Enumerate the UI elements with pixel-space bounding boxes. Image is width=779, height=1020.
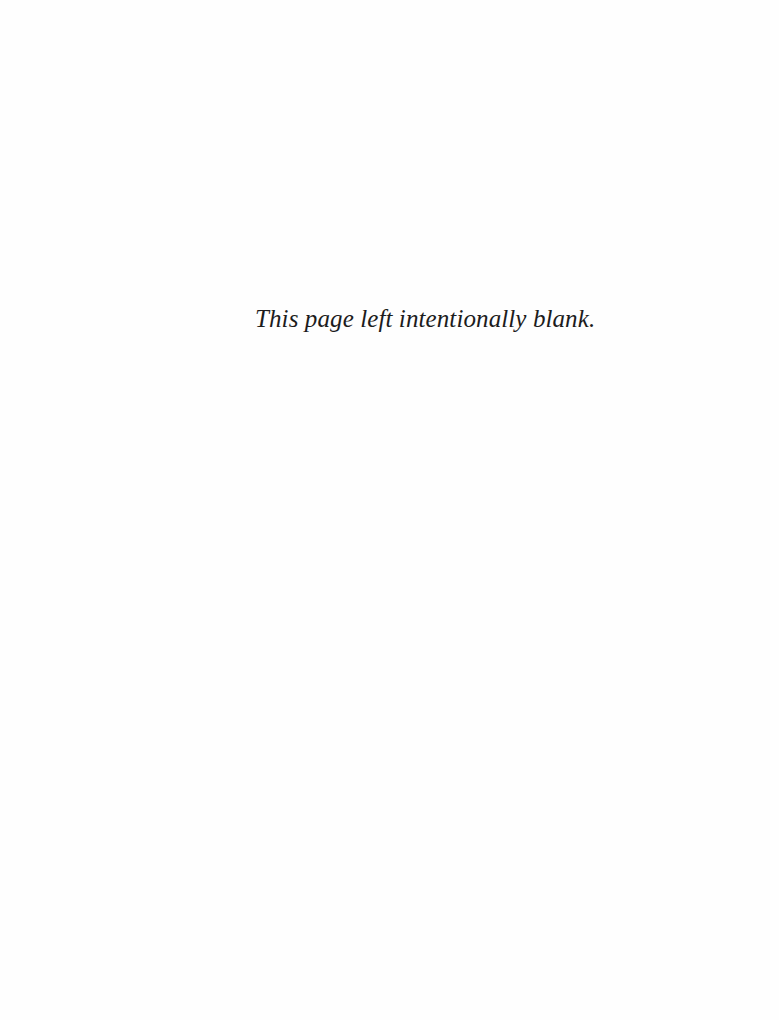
intentionally-blank-notice: This page left intentionally blank. xyxy=(255,303,585,335)
blank-page: This page left intentionally blank. xyxy=(0,0,779,1020)
